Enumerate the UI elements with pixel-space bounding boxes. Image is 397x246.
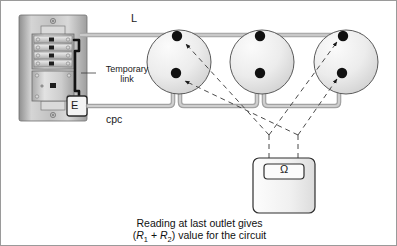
caption-r2-symbol: R bbox=[160, 229, 168, 241]
socket-outlet-1 bbox=[147, 30, 211, 94]
socket-outlet-3 bbox=[314, 30, 378, 94]
caption-plus: + bbox=[148, 229, 160, 241]
ohm-symbol-label: Ω bbox=[253, 163, 315, 176]
socket-1-live-terminal bbox=[172, 31, 182, 41]
temporary-link-label: Temporary link bbox=[99, 64, 155, 85]
temporary-link-label-line1: Temporary bbox=[106, 64, 149, 74]
earth-terminal-label: E bbox=[71, 99, 78, 112]
socket-3-cpc-terminal bbox=[337, 68, 347, 78]
socket-2-cpc-terminal bbox=[255, 68, 265, 78]
caption-line-2: (R1 + R2) value for the circuit bbox=[1, 229, 397, 245]
socket-3-live-terminal bbox=[338, 31, 348, 41]
socket-outlet-2 bbox=[230, 30, 294, 94]
cpc-conductor-label: cpc bbox=[106, 113, 122, 125]
socket-1-cpc-terminal bbox=[171, 68, 181, 78]
temporary-link-label-line2: link bbox=[120, 74, 134, 84]
diagram-canvas: L cpc Temporary link E Ω Reading at last… bbox=[0, 0, 397, 246]
caption-r1-symbol: R bbox=[136, 229, 144, 241]
wiring-diagram-illustration bbox=[1, 1, 397, 246]
caption-suffix: ) value for the circuit bbox=[172, 229, 267, 241]
live-conductor-label: L bbox=[131, 12, 137, 25]
diagram-caption: Reading at last outlet gives (R1 + R2) v… bbox=[1, 217, 397, 245]
socket-2-live-terminal bbox=[255, 31, 265, 41]
caption-line-1: Reading at last outlet gives bbox=[1, 217, 397, 229]
